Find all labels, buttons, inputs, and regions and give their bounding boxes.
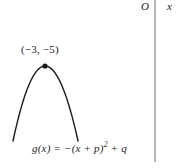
parabola-figure: (−3, −5) O x g(x) = −(x + p)2 + q <box>0 0 182 168</box>
equation-body: g(x) = −(x + p) <box>32 142 104 154</box>
x-axis-label: x <box>167 1 172 12</box>
vertex-point-marker <box>42 63 47 68</box>
origin-label: O <box>141 1 149 12</box>
equation-tail: + q <box>108 142 127 154</box>
parabola-curve <box>13 66 78 141</box>
function-equation-label: g(x) = −(x + p)2 + q <box>32 141 127 154</box>
vertex-coordinate-label: (−3, −5) <box>21 44 59 55</box>
